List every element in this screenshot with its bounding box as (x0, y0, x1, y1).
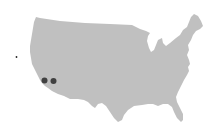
marker-southern-california-east (51, 78, 57, 84)
marker-southern-california-west (42, 78, 48, 84)
marker-offshore-pacific (16, 56, 18, 58)
us-map (0, 0, 219, 134)
